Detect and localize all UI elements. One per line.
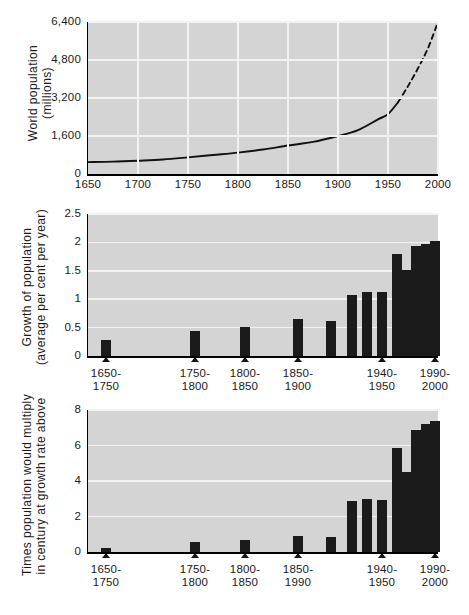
chart3-x-tick-label-line1: 1850- bbox=[283, 563, 313, 575]
chart1-gridline-vertical bbox=[437, 22, 439, 174]
chart2-y-tick-label: 0 bbox=[38, 350, 81, 362]
chart3-x-tick-label-line2: 1750 bbox=[93, 576, 119, 588]
chart1-x-tick-label: 1950 bbox=[363, 178, 413, 191]
chart3-x-tick-marker bbox=[241, 553, 249, 558]
chart2-bar bbox=[430, 241, 440, 356]
chart2-bar bbox=[401, 270, 411, 356]
chart3-y-tick-label: 8 bbox=[38, 404, 81, 416]
chart2-bar bbox=[293, 319, 303, 356]
chart2-bar bbox=[347, 295, 357, 356]
chart1-y-tick-label: 6,400 bbox=[26, 16, 81, 28]
chart1-y-tick-label: 4,800 bbox=[26, 54, 81, 66]
chart1-gridline-vertical bbox=[387, 22, 389, 174]
chart2-y-tick-label: 2.5 bbox=[38, 208, 81, 220]
chart2-bar bbox=[377, 292, 387, 356]
chart1-y-tick-label: 3,200 bbox=[26, 92, 81, 104]
chart3-bar bbox=[401, 472, 411, 552]
chart2-y-tick-label: 1.5 bbox=[38, 265, 81, 277]
chart3-x-tick-label-line1: 1650- bbox=[91, 563, 121, 575]
chart3-bar bbox=[293, 536, 303, 552]
chart2-x-tick-label-line2: 1900 bbox=[285, 380, 311, 392]
chart3-x-tick-label-line2: 1800 bbox=[182, 576, 208, 588]
chart3-x-tick-label: 1650-1750 bbox=[74, 563, 138, 589]
chart2-x-tick-label-line2: 2000 bbox=[422, 380, 448, 392]
chart1-gridline-vertical bbox=[187, 22, 189, 174]
chart2-x-tick-marker bbox=[431, 357, 439, 362]
chart2-x-tick-marker bbox=[241, 357, 249, 362]
chart1-gridline-vertical bbox=[287, 22, 289, 174]
chart2-gridline-horizontal bbox=[88, 242, 438, 244]
chart2-bar bbox=[362, 292, 372, 356]
chart3-bar bbox=[362, 499, 372, 552]
chart3-bar bbox=[240, 540, 250, 552]
chart2-x-tick-marker bbox=[102, 357, 110, 362]
chart3-x-tick-marker bbox=[378, 553, 386, 558]
chart2-bar bbox=[411, 246, 421, 356]
chart-growth-of-population: Growth of population (average per cent p… bbox=[0, 200, 469, 396]
chart1-x-tick-label: 2000 bbox=[413, 178, 463, 191]
chart2-x-tick-marker bbox=[378, 357, 386, 362]
chart1-population-curve-observed bbox=[88, 102, 398, 162]
chart2-gridline-horizontal bbox=[88, 213, 438, 215]
chart2-x-tick-label-line1: 1990- bbox=[420, 367, 450, 379]
chart2-bar bbox=[240, 327, 250, 356]
chart2-x-tick-label-line1: 1940- bbox=[367, 367, 397, 379]
chart3-bar bbox=[377, 500, 387, 552]
chart1-population-curve-projected bbox=[398, 22, 438, 102]
chart3-gridline-horizontal bbox=[88, 409, 438, 411]
chart3-x-tick-marker bbox=[431, 553, 439, 558]
chart1-x-tick-label: 1900 bbox=[313, 178, 363, 191]
chart3-x-tick-marker bbox=[191, 553, 199, 558]
chart3-bar bbox=[101, 548, 111, 552]
chart2-x-tick-label: 1990-2000 bbox=[403, 367, 467, 393]
chart3-x-tick-marker bbox=[294, 553, 302, 558]
chart2-bar bbox=[101, 340, 111, 356]
chart2-x-tick-label-line1: 1650- bbox=[91, 367, 121, 379]
chart2-x-tick-marker bbox=[294, 357, 302, 362]
chart3-gridline-horizontal bbox=[88, 480, 438, 482]
chart3-gridline-horizontal bbox=[88, 445, 438, 447]
population-growth-figure: World population (millions) 01,6003,2004… bbox=[0, 0, 469, 615]
chart2-x-tick-label-line2: 1750 bbox=[93, 380, 119, 392]
chart3-y-tick-label: 0 bbox=[38, 546, 81, 558]
chart1-x-tick-label: 1750 bbox=[163, 178, 213, 191]
chart2-x-tick-label-line2: 1800 bbox=[182, 380, 208, 392]
chart1-y-tick-label: 1,600 bbox=[26, 130, 81, 142]
chart2-bar bbox=[190, 331, 200, 356]
chart2-x-tick-label: 1850-1900 bbox=[266, 367, 330, 393]
chart3-bar bbox=[326, 537, 336, 552]
chart3-x-tick-label-line1: 1940- bbox=[367, 563, 397, 575]
chart1-x-tick-label: 1800 bbox=[213, 178, 263, 191]
chart3-y-tick-label: 4 bbox=[38, 475, 81, 487]
chart2-x-tick-label: 1650-1750 bbox=[74, 367, 138, 393]
chart3-y-axis-label-line1: Times population would multiply bbox=[20, 394, 34, 576]
chart3-x-tick-label-line1: 1990- bbox=[420, 563, 450, 575]
chart2-x-tick-label-line2: 1850 bbox=[232, 380, 258, 392]
chart1-x-tick-label: 1850 bbox=[263, 178, 313, 191]
chart2-x-tick-label-line1: 1750- bbox=[180, 367, 210, 379]
chart1-gridline-horizontal bbox=[88, 135, 438, 137]
chart3-x-tick-label-line2: 2000 bbox=[422, 576, 448, 588]
chart1-gridline-horizontal bbox=[88, 59, 438, 61]
chart3-y-tick-label: 2 bbox=[38, 511, 81, 523]
chart3-x-tick-label-line2: 1850 bbox=[232, 576, 258, 588]
chart3-x-tick-label: 1990-2000 bbox=[403, 563, 467, 589]
chart2-y-tick-label: 0.5 bbox=[38, 322, 81, 334]
chart3-x-tick-label-line1: 1800- bbox=[230, 563, 260, 575]
chart1-gridline-vertical bbox=[137, 22, 139, 174]
chart2-y-tick-label: 2 bbox=[38, 236, 81, 248]
chart1-gridline-horizontal bbox=[88, 21, 438, 23]
chart3-bar bbox=[347, 501, 357, 552]
chart3-bar bbox=[190, 542, 200, 552]
chart3-x-tick-marker bbox=[102, 553, 110, 558]
chart3-x-tick-label-line2: 1990 bbox=[285, 576, 311, 588]
chart2-x-tick-label-line1: 1800- bbox=[230, 367, 260, 379]
chart-times-population-would-multiply: Times population would multiply in centu… bbox=[0, 396, 469, 615]
chart2-bar bbox=[326, 321, 336, 356]
chart2-y-tick-label: 1 bbox=[38, 293, 81, 305]
chart3-y-axis-line bbox=[87, 410, 89, 554]
chart2-x-tick-label-line1: 1850- bbox=[283, 367, 313, 379]
chart2-y-axis-label-line1: Growth of population bbox=[20, 228, 34, 347]
chart2-y-axis-label-line2: (average per cent per year) bbox=[34, 209, 48, 365]
chart2-x-tick-marker bbox=[191, 357, 199, 362]
